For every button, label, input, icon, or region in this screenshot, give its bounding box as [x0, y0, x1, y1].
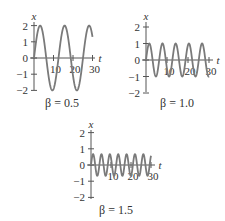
caption-beta-1.0: β = 1.0: [160, 96, 194, 110]
figure: 210−1−2102030xt 210−1−2102030xt 210−1−21…: [0, 0, 225, 221]
caption-beta-0.5: β = 0.5: [45, 96, 79, 110]
caption-beta-1.5: β = 1.5: [99, 203, 133, 217]
captions: β = 0.5 β = 1.0 β = 1.5: [0, 0, 225, 221]
